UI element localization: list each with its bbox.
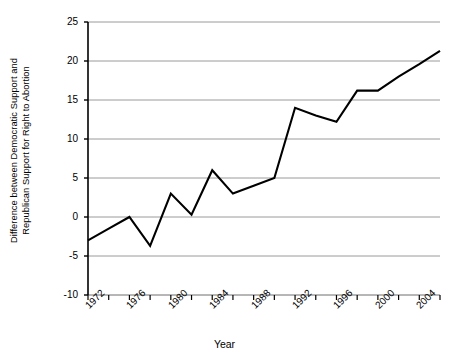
y-tick-label: 0 — [44, 211, 78, 222]
y-tick-label: -10 — [44, 289, 78, 300]
chart-figure: Difference between Democratic Support an… — [0, 0, 449, 359]
gridlines — [88, 22, 440, 295]
y-tick-label: 5 — [44, 172, 78, 183]
y-tick-label: -5 — [44, 250, 78, 261]
y-tick-label: 15 — [44, 94, 78, 105]
x-axis-label: Year — [0, 338, 449, 350]
y-tick-label: 20 — [44, 55, 78, 66]
y-tick-label: 10 — [44, 133, 78, 144]
y-tick-label: 25 — [44, 16, 78, 27]
